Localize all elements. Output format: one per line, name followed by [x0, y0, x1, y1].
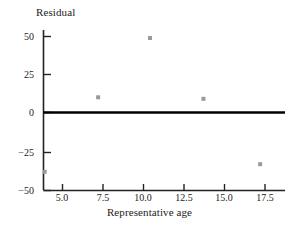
data-point [96, 95, 100, 99]
x-tick-label-15: 15.0 [206, 192, 242, 203]
plot-area: Residual Representative age 50 25 0 −25 … [0, 0, 299, 229]
residual-plot: Residual Representative age 50 25 0 −25 … [0, 0, 299, 229]
x-tick-marks [63, 184, 266, 191]
data-point [201, 97, 205, 101]
y-tick-label-0: 0 [4, 107, 34, 118]
x-tick-label-17-5: 17.5 [247, 192, 283, 203]
x-tick-label-12-5: 12.5 [166, 192, 202, 203]
y-tick-label-neg50: −50 [4, 185, 34, 196]
y-tick-label-neg25: −25 [4, 147, 34, 158]
y-tick-label-25: 25 [4, 69, 34, 80]
x-axis-title: Representative age [0, 206, 299, 218]
data-point [148, 36, 152, 40]
data-point-group [43, 36, 262, 174]
x-tick-label-10: 10.0 [125, 192, 161, 203]
data-point [43, 170, 47, 174]
data-point [258, 162, 262, 166]
x-tick-label-7-5: 7.5 [85, 192, 121, 203]
y-axis-title: Residual [36, 6, 75, 18]
x-tick-label-5: 5.0 [44, 192, 80, 203]
y-tick-label-50: 50 [4, 31, 34, 42]
